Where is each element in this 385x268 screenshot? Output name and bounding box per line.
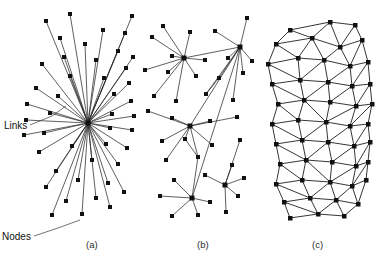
panel-c-nodes xyxy=(266,20,375,221)
panel-b-multihub-graph xyxy=(143,16,254,218)
figure-canvas: Links Nodes (a) (b) (c) xyxy=(0,0,385,268)
nodes-label: Nodes xyxy=(2,231,31,242)
panel-a-star-graph xyxy=(22,12,136,217)
panel-a-edges xyxy=(24,14,134,215)
links-label: Links xyxy=(4,120,27,131)
panel-b-caption: (b) xyxy=(197,239,209,250)
annotation-links: Links xyxy=(4,106,66,131)
panel-b-nodes xyxy=(143,16,254,218)
panel-c-mesh-graph xyxy=(266,20,375,221)
network-topology-figure: Links Nodes (a) (b) (c) xyxy=(0,0,385,268)
panel-c-edges xyxy=(268,22,372,218)
panel-c-caption: (c) xyxy=(312,239,323,250)
panel-a-caption: (a) xyxy=(86,239,98,250)
nodes-leader-line xyxy=(34,220,80,236)
annotation-nodes: Nodes xyxy=(2,220,80,242)
